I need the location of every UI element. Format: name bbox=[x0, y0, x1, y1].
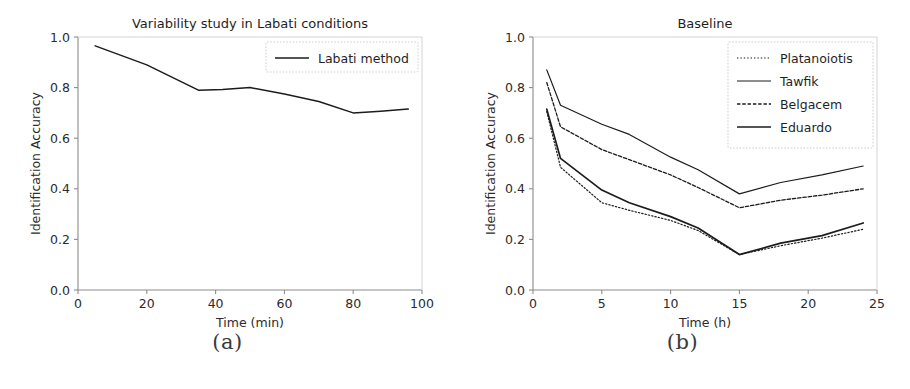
x-tick-label: 80 bbox=[345, 296, 361, 311]
x-axis-label: Time (min) bbox=[215, 315, 284, 330]
figure-row: 0204060801000.00.20.40.60.81.0Time (min)… bbox=[0, 0, 910, 389]
legend-label-eduardo: Eduardo bbox=[780, 120, 832, 135]
x-tick-label: 20 bbox=[800, 296, 816, 311]
x-tick-label: 40 bbox=[208, 296, 224, 311]
x-tick-label: 100 bbox=[410, 296, 434, 311]
x-axis-label: Time (h) bbox=[678, 315, 731, 330]
y-tick-label: 1.0 bbox=[50, 30, 70, 45]
y-tick-label: 0.8 bbox=[50, 80, 70, 95]
y-tick-label: 0.0 bbox=[505, 283, 525, 298]
y-tick-label: 0.6 bbox=[50, 131, 70, 146]
x-tick-label: 0 bbox=[529, 296, 537, 311]
y-tick-label: 0.4 bbox=[50, 181, 70, 196]
chart-panel-a: 0204060801000.00.20.40.60.81.0Time (min)… bbox=[0, 0, 455, 330]
subfigure-caption-a: (a) bbox=[0, 330, 455, 354]
y-axis-label: Identification Accuracy bbox=[483, 91, 498, 235]
x-tick-label: 0 bbox=[74, 296, 82, 311]
subfigure-b: 05101520250.00.20.40.60.81.0Time (h)Iden… bbox=[455, 0, 910, 389]
subfigure-caption-b: (b) bbox=[455, 330, 910, 354]
chart-title: Baseline bbox=[677, 16, 732, 31]
chart-panel-b: 05101520250.00.20.40.60.81.0Time (h)Iden… bbox=[455, 0, 910, 330]
chart-title: Variability study in Labati conditions bbox=[132, 16, 368, 31]
x-tick-label: 20 bbox=[139, 296, 155, 311]
chart-svg-b: 05101520250.00.20.40.60.81.0Time (h)Iden… bbox=[455, 0, 910, 330]
legend-label-tawfik: Tawfik bbox=[779, 74, 819, 89]
x-tick-label: 60 bbox=[276, 296, 292, 311]
y-tick-label: 0.2 bbox=[50, 232, 70, 247]
y-tick-label: 0.6 bbox=[505, 131, 525, 146]
legend-label-platanoiotis: Platanoiotis bbox=[780, 51, 853, 66]
legend-label-labati method: Labati method bbox=[318, 51, 409, 66]
subfigure-a: 0204060801000.00.20.40.60.81.0Time (min)… bbox=[0, 0, 455, 389]
y-axis-label: Identification Accuracy bbox=[28, 91, 43, 235]
y-tick-label: 1.0 bbox=[505, 30, 525, 45]
legend-label-belgacem: Belgacem bbox=[780, 97, 842, 112]
y-tick-label: 0.0 bbox=[50, 283, 70, 298]
y-tick-label: 0.4 bbox=[505, 181, 525, 196]
chart-svg-a: 0204060801000.00.20.40.60.81.0Time (min)… bbox=[0, 0, 455, 330]
x-tick-label: 15 bbox=[731, 296, 747, 311]
x-tick-label: 10 bbox=[663, 296, 679, 311]
axis-spines bbox=[78, 37, 422, 290]
x-tick-label: 25 bbox=[869, 296, 885, 311]
x-tick-label: 5 bbox=[598, 296, 606, 311]
y-tick-label: 0.2 bbox=[505, 232, 525, 247]
y-tick-label: 0.8 bbox=[505, 80, 525, 95]
axis-frame-light bbox=[78, 37, 422, 290]
